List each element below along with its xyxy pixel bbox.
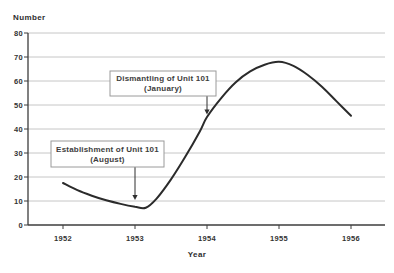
x-tick-label: 1955: [270, 234, 288, 243]
y-tick-label: 30: [14, 149, 23, 158]
annotation-label: (January): [144, 84, 182, 93]
annotation-label: Dismantling of Unit 101: [116, 74, 210, 83]
x-tick-label: 1953: [126, 234, 144, 243]
annotation-label: Establishment of Unit 101: [56, 145, 159, 154]
y-tick-label: 0: [19, 221, 23, 230]
x-tick-label: 1956: [342, 234, 360, 243]
annotation-label: (August): [90, 155, 125, 164]
y-axis-title: Number: [13, 13, 46, 22]
y-tick-label: 70: [14, 53, 23, 62]
x-axis-title: Year: [0, 250, 394, 259]
y-tick-label: 60: [14, 77, 23, 86]
chart-svg: 0102030405060708019521953195419551956Dis…: [0, 0, 394, 273]
y-tick-label: 50: [14, 101, 23, 110]
x-tick-label: 1954: [198, 234, 216, 243]
y-tick-label: 10: [14, 197, 23, 206]
line-chart: 0102030405060708019521953195419551956Dis…: [0, 0, 394, 273]
y-tick-label: 20: [14, 173, 23, 182]
y-tick-label: 80: [14, 29, 23, 38]
y-tick-label: 40: [14, 125, 23, 134]
arrowhead-icon: [132, 195, 137, 200]
x-tick-label: 1952: [54, 234, 72, 243]
